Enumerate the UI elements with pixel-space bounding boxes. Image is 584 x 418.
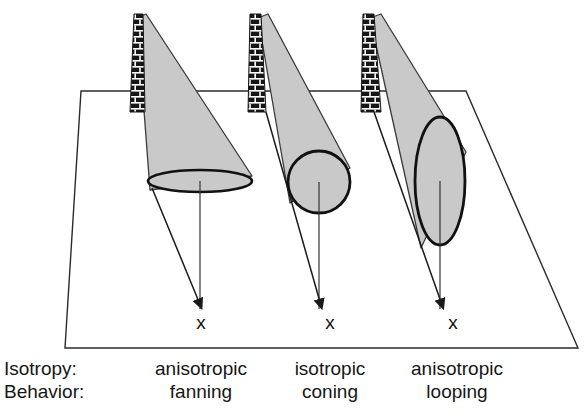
legend-behavior-fanning: fanning (170, 381, 232, 402)
plume-fanning-arrow (152, 188, 199, 302)
legend-behavior-coning: coning (302, 381, 358, 402)
legend-isotropy-looping: anisotropic (411, 358, 503, 379)
plume-fanning-group: x (130, 14, 252, 333)
legend-isotropy-coning: isotropic (295, 358, 366, 379)
smokestack-fanning (130, 14, 145, 112)
plume-coning-marker: x (325, 312, 335, 333)
legend-header-behavior: Behavior: (4, 381, 84, 402)
plume-looping-marker: x (448, 312, 458, 333)
legend-block: Isotropy: anisotropic isotropic anisotro… (4, 358, 503, 402)
plume-fanning-cone (137, 14, 252, 190)
legend-isotropy-fanning: anisotropic (155, 358, 247, 379)
plume-coning-group: x (248, 14, 350, 333)
legend-header-isotropy: Isotropy: (4, 358, 77, 379)
plume-fanning-marker: x (196, 312, 206, 333)
diagram-canvas: x x x Isotropy: anisotropic isotropic a (0, 0, 584, 418)
plume-looping-group: x (361, 14, 466, 333)
plume-dispersion-figure: x x x Isotropy: anisotropic isotropic a (0, 0, 584, 418)
legend-behavior-looping: looping (426, 381, 487, 402)
